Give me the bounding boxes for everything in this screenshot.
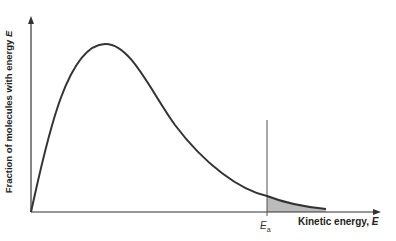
x-axis-arrow [373,209,381,215]
activation-energy-label: Ea [260,220,271,233]
y-axis-arrow [28,16,34,24]
distribution-curve [31,44,326,212]
x-axis-label: Kinetic energy, E [298,216,378,227]
distribution-diagram [0,0,396,241]
y-axis-label: Fraction of molecules with energy E [3,12,14,212]
